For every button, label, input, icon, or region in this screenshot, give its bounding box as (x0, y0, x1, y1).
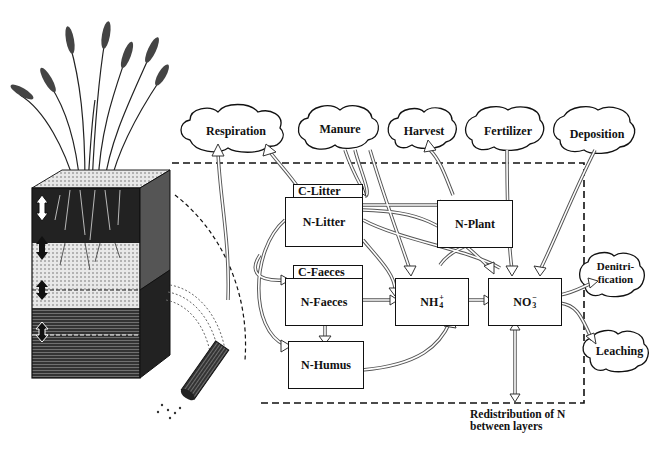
nh4-charge: + 4 (439, 294, 444, 310)
deposition-label: Deposition (562, 127, 632, 142)
no3-formula: NO − 3 (513, 294, 537, 310)
denitrification-label: Denitri- fication (588, 260, 643, 286)
caption-line2: between layers (470, 420, 565, 432)
nh4-formula: NH + 4 (420, 294, 444, 310)
denitrification-line1: Denitri- (588, 260, 643, 273)
no3-sub: 3 (532, 302, 537, 310)
no3-box: NO − 3 (488, 278, 562, 326)
redistribution-caption: Redistribution of N between layers (470, 408, 565, 432)
n-litter-box: N-Litter (285, 197, 363, 247)
c-litter-tab: C-Litter (293, 184, 363, 197)
n-faeces-box: N-Faeces (285, 278, 363, 326)
nh4-box: NH + 4 (395, 278, 469, 326)
nh4-base: NH (420, 295, 438, 310)
caption-line1: Redistribution of N (470, 408, 565, 420)
nh4-sub: 4 (439, 302, 444, 310)
harvest-label: Harvest (395, 124, 453, 139)
leaching-label: Leaching (592, 344, 647, 359)
denitrification-line2: fication (588, 273, 643, 286)
soil-profile-illustration (9, 21, 246, 420)
manure-label: Manure (305, 122, 375, 137)
fertilizer-label: Fertilizer (474, 124, 542, 139)
n-plant-box: N-Plant (437, 200, 513, 248)
c-faeces-tab: C-Faeces (293, 265, 363, 278)
n-humus-box: N-Humus (288, 341, 364, 389)
no3-charge: − 3 (532, 294, 537, 310)
no3-base: NO (513, 295, 531, 310)
respiration-label: Respiration (196, 124, 276, 139)
